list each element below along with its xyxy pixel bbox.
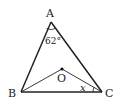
label-point-a: A bbox=[45, 7, 55, 20]
label-angle-x: x bbox=[80, 82, 86, 93]
segment-ab bbox=[21, 22, 51, 92]
point-o-dot bbox=[60, 67, 63, 70]
triangle-diagram: A B C O 62° x bbox=[0, 0, 129, 108]
label-point-c: C bbox=[105, 87, 113, 100]
label-point-o: O bbox=[57, 72, 66, 85]
label-angle-a: 62° bbox=[45, 36, 61, 46]
label-point-b: B bbox=[8, 87, 16, 100]
segment-bo bbox=[21, 69, 62, 92]
